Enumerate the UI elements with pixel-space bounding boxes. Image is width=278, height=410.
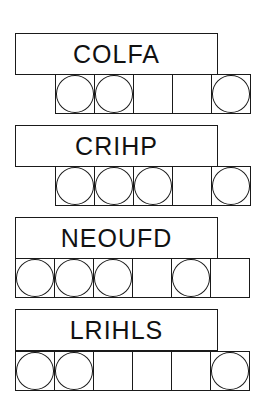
letter-box[interactable] [93,351,133,391]
letter-box[interactable] [171,351,211,391]
letter-box[interactable] [210,258,250,298]
answer-letter-boxes [55,74,251,114]
circle-icon [56,75,94,113]
answer-letter-boxes [15,351,250,391]
circled-letter-box[interactable] [133,166,173,206]
circle-icon [95,167,133,205]
circle-icon [94,259,132,297]
circled-letter-box[interactable] [211,74,251,114]
letter-box[interactable] [132,258,172,298]
circle-icon [212,167,250,205]
scrambled-word-label: COLFA [15,33,218,75]
letter-box[interactable] [133,74,173,114]
circle-icon [56,167,94,205]
circled-letter-box[interactable] [55,74,95,114]
scrambled-word-label: LRIHLS [15,309,218,351]
circled-letter-box[interactable] [94,74,134,114]
circled-letter-box[interactable] [210,351,250,391]
circle-icon [16,259,54,297]
circled-letter-box[interactable] [211,166,251,206]
circle-icon [134,167,172,205]
circle-icon [95,75,133,113]
answer-letter-boxes [55,166,251,206]
circled-letter-box[interactable] [55,166,95,206]
circle-icon [55,352,93,390]
letter-box[interactable] [172,74,212,114]
circled-letter-box[interactable] [15,258,55,298]
letter-box[interactable] [132,351,172,391]
answer-letter-boxes [15,258,250,298]
circle-icon [211,352,249,390]
circled-letter-box[interactable] [171,258,211,298]
circle-icon [16,352,54,390]
scrambled-word-label: CRIHP [15,125,218,167]
circled-letter-box[interactable] [15,351,55,391]
circled-letter-box[interactable] [54,351,94,391]
letter-box[interactable] [172,166,212,206]
circle-icon [172,259,210,297]
circled-letter-box[interactable] [94,166,134,206]
circle-icon [212,75,250,113]
scrambled-word-label: NEOUFD [15,217,218,259]
circled-letter-box[interactable] [54,258,94,298]
circled-letter-box[interactable] [93,258,133,298]
circle-icon [55,259,93,297]
